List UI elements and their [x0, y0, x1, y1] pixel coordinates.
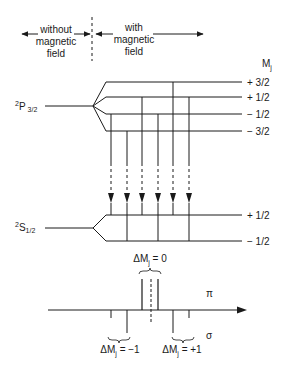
without-label-1: without [39, 24, 72, 35]
mj-column-header: Mj [262, 58, 272, 72]
upper-fan-line [93, 82, 106, 106]
lower-state-label: 2S1/2 [15, 221, 35, 234]
delta-mj-minus-brace [108, 337, 130, 343]
with-label-1: with [124, 22, 143, 33]
without-label-3: field [47, 48, 65, 59]
pi-label: π [206, 288, 213, 299]
spectrum-plot [48, 268, 247, 343]
lower-mj-value: − 1/2 [247, 236, 270, 247]
axis-arrow-icon [237, 307, 247, 314]
upper-state-label: 2P3/2 [15, 100, 37, 113]
upper-mj-value: + 1/2 [247, 92, 270, 103]
delta-mj-minus-one-label: ΔMj = −1 [100, 344, 140, 358]
upper-mj-value: + 3/2 [247, 77, 270, 88]
delta-mj-zero-label: ΔMj = 0 [133, 253, 167, 267]
arrowhead-icon [124, 193, 130, 203]
arrowhead-icon [186, 193, 192, 203]
with-label-2: magnetic [114, 34, 155, 45]
header-region: without magnetic field with magnetic fie… [22, 17, 203, 61]
upper-mj-value: − 1/2 [247, 109, 270, 120]
zeeman-effect-diagram: without magnetic field with magnetic fie… [0, 0, 287, 379]
without-label-2: magnetic [36, 36, 77, 47]
transition-arrows [108, 82, 192, 241]
energy-level-svg: without magnetic field with magnetic fie… [0, 0, 287, 379]
arrowhead-icon [139, 193, 145, 203]
delta-mj-plus-brace [172, 337, 194, 343]
delta-mj-plus-one-label: ΔMj = +1 [162, 344, 202, 358]
upper-mj-value: − 3/2 [247, 126, 270, 137]
lower-fan-line [93, 228, 106, 241]
with-label-3: field [125, 46, 143, 57]
lower-fan-line [93, 215, 106, 228]
energy-levels: + 3/2+ 1/2− 1/2− 3/2+ 1/2− 1/2 [45, 77, 270, 247]
sigma-label: σ [206, 330, 213, 341]
delta-mj-zero-brace [139, 268, 161, 274]
arrowhead-icon [108, 193, 114, 203]
lower-mj-value: + 1/2 [247, 210, 270, 221]
arrowhead-icon [170, 193, 176, 203]
arrowhead-icon [155, 193, 161, 203]
